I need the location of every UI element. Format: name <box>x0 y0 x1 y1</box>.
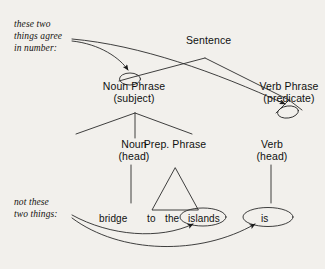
node-label-noun-phrase: Noun Phrase (subject) <box>84 80 184 105</box>
node-label-noun-phrase-sub: (subject) <box>84 92 184 104</box>
word-islands: islands <box>188 213 220 225</box>
node-label-verb-text: Verb <box>261 138 283 150</box>
node-label-verb-phrase-text: Verb Phrase <box>260 80 319 92</box>
word-the: the <box>165 213 179 225</box>
annotation-not-these-line-2: two things: <box>14 208 58 220</box>
annotation-agree-line-3: in number: <box>14 42 62 54</box>
word-bridge: bridge <box>99 213 127 225</box>
node-label-prep-phrase-text: Prep. Phrase <box>144 138 206 150</box>
annotation-not-these: not these two things: <box>14 196 58 220</box>
tree-branch-np-to-prep <box>135 113 192 134</box>
annotation-agree-line-1: these two <box>14 18 62 30</box>
node-label-sentence: Sentence <box>186 34 231 46</box>
arrow-agree-to-np <box>72 41 128 70</box>
node-label-verb-phrase: Verb Phrase (predicate) <box>249 80 325 105</box>
word-to: to <box>147 213 156 225</box>
word-is: is <box>261 213 268 225</box>
node-label-prep-phrase: Prep. Phrase <box>142 138 208 150</box>
tree-branch-np-to-noun-left <box>76 113 135 134</box>
node-label-noun-sub: (head) <box>106 150 162 162</box>
annotation-agree: these two things agree in number: <box>14 18 62 54</box>
node-label-verb-sub: (head) <box>244 150 300 162</box>
sentence-tree-diagram: these two things agree in number: not th… <box>0 0 325 269</box>
node-label-verb-phrase-sub: (predicate) <box>249 92 325 104</box>
node-label-sentence-text: Sentence <box>186 34 231 46</box>
prep-phrase-triangle <box>152 168 198 210</box>
node-label-noun-phrase-text: Noun Phrase <box>103 80 165 92</box>
annotation-agree-line-2: things agree <box>14 30 62 42</box>
annotation-not-these-line-1: not these <box>14 196 58 208</box>
vp-node-circle <box>277 105 299 120</box>
node-label-verb: Verb (head) <box>244 138 300 163</box>
tree-branch-sentence-to-np <box>137 58 205 76</box>
